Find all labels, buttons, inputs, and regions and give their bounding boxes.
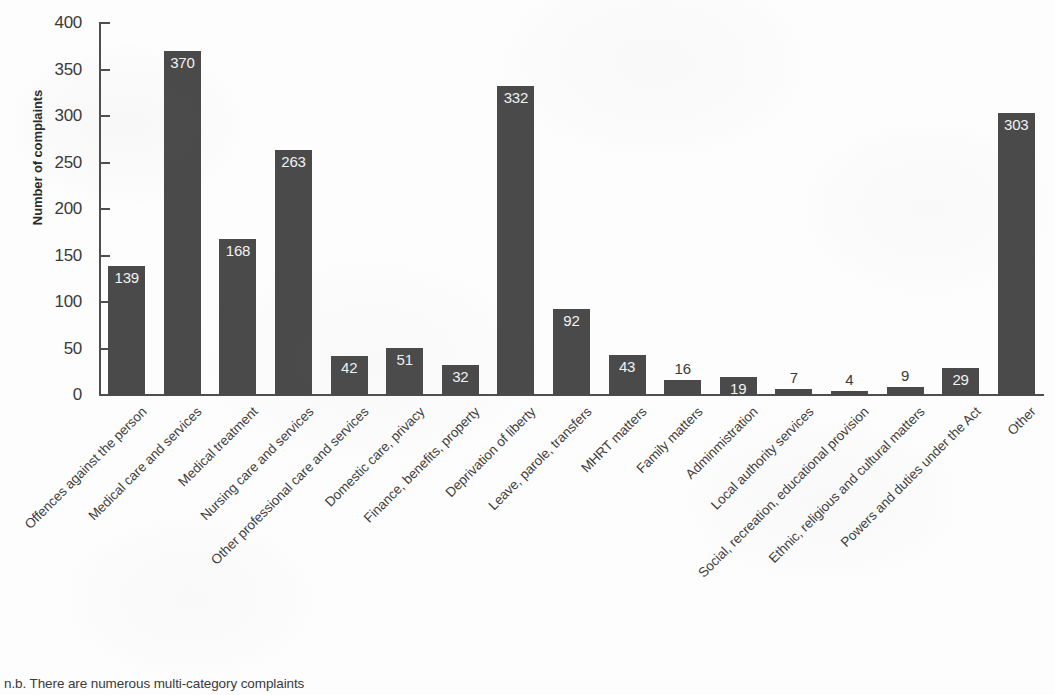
x-axis-category-label: Other <box>1005 404 1039 438</box>
x-axis-category-label: Domestic care, privacy <box>322 404 428 510</box>
x-axis-category-label: Local authority services <box>708 404 817 513</box>
x-axis-category-label: Medical care and services <box>86 404 205 523</box>
x-axis-category-label: Finance, benefits, property <box>361 404 483 526</box>
x-axis-category-label: Nursing care and services <box>197 404 316 523</box>
chart-footnote: n.b. There are numerous multi-category c… <box>4 676 304 691</box>
bar-chart: Number of complaints 0501001502002503003… <box>0 0 1055 695</box>
x-axis-category-label: Leave, parole, transfers <box>485 404 594 513</box>
x-axis-category-labels: Offences against the personMedical care … <box>0 0 1055 695</box>
